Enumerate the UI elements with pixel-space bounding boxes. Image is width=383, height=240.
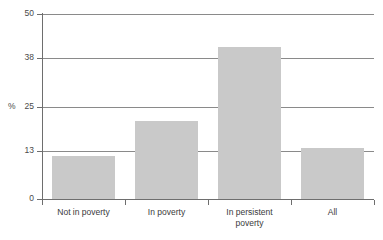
category-label: Not in poverty (42, 207, 125, 218)
x-tick-mark (125, 200, 126, 205)
y-tick-mark (37, 107, 42, 108)
bar (301, 148, 364, 199)
y-tick-mark (37, 14, 42, 15)
category-label-line: In poverty (125, 207, 208, 218)
gridline (42, 58, 374, 59)
bar (52, 156, 115, 199)
category-label-line: All (291, 207, 374, 218)
x-tick-mark (208, 200, 209, 205)
gridline (42, 14, 374, 15)
x-tick-mark (42, 200, 43, 205)
x-tick-mark (291, 200, 292, 205)
gridline (42, 107, 374, 108)
y-tick-label: 0 (4, 194, 34, 203)
y-axis-line (42, 13, 43, 200)
x-tick-mark (374, 200, 375, 205)
y-tick-label: 50 (4, 9, 34, 18)
bar (218, 47, 281, 199)
category-label: In persistentpoverty (208, 207, 291, 228)
category-label-line: poverty (208, 218, 291, 229)
y-tick-label: 13 (4, 146, 34, 155)
bar-chart: 013253850 % Not in povertyIn povertyIn p… (0, 0, 383, 240)
y-tick-mark (37, 151, 42, 152)
bar (135, 121, 198, 199)
category-label: All (291, 207, 374, 218)
category-label-line: Not in poverty (42, 207, 125, 218)
category-label-line: In persistent (208, 207, 291, 218)
y-tick-mark (37, 58, 42, 59)
category-label: In poverty (125, 207, 208, 218)
y-tick-label: 38 (4, 53, 34, 62)
y-axis-title: % (8, 102, 16, 111)
